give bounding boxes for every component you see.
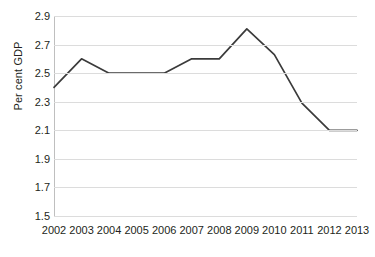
x-axis-tick-label: 2007 <box>179 224 203 237</box>
gridline <box>54 130 357 131</box>
line-chart: Per cent GDP 1.51.71.92.12.32.52.72.9 20… <box>0 0 375 257</box>
y-axis-tick-label: 2.3 <box>22 96 50 107</box>
x-axis-tick-label: 2008 <box>207 224 231 237</box>
gridline <box>54 102 357 103</box>
plot-area <box>54 16 357 216</box>
y-axis-tick-label: 1.5 <box>22 211 50 222</box>
gridline <box>54 159 357 160</box>
x-axis-tick-label: 2010 <box>262 224 286 237</box>
gridline <box>54 45 357 46</box>
gridline <box>54 216 357 217</box>
y-axis-tick-label: 2.9 <box>22 11 50 22</box>
x-axis-tick-labels: 2002200320042005200620072008200920102011… <box>54 224 357 244</box>
x-axis-tick-label: 2002 <box>42 224 66 237</box>
x-axis-tick-label: 2009 <box>235 224 259 237</box>
x-axis-tick-label: 2013 <box>345 224 369 237</box>
y-axis-tick-labels: 1.51.71.92.12.32.52.72.9 <box>22 10 50 222</box>
y-axis-tick-label: 2.1 <box>22 125 50 136</box>
x-axis-tick-label: 2012 <box>317 224 341 237</box>
gridline <box>54 73 357 74</box>
x-axis-tick-label: 2005 <box>124 224 148 237</box>
x-axis-tick-label: 2011 <box>290 224 314 237</box>
y-axis-tick-label: 2.7 <box>22 39 50 50</box>
y-axis-tick-label: 1.9 <box>22 153 50 164</box>
gridline <box>54 16 357 17</box>
x-axis-tick-label: 2004 <box>97 224 121 237</box>
x-axis-tick-label: 2006 <box>152 224 176 237</box>
y-axis-tick-label: 1.7 <box>22 182 50 193</box>
x-axis-tick-label: 2003 <box>69 224 93 237</box>
gridline <box>54 187 357 188</box>
y-axis-tick-label: 2.5 <box>22 68 50 79</box>
series-line-layer <box>54 16 357 216</box>
